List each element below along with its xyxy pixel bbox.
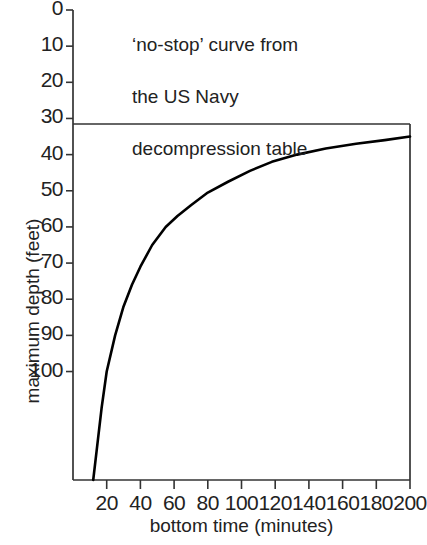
y-tick-label: 0 xyxy=(52,0,63,20)
x-tick-label: 160 xyxy=(325,491,360,515)
y-tick-label: 30 xyxy=(41,104,63,128)
y-tick-label: 40 xyxy=(41,141,63,165)
x-tick-label: 120 xyxy=(258,491,293,515)
x-axis-title: bottom time (minutes) xyxy=(73,515,410,537)
series-group xyxy=(93,137,410,480)
y-axis-title: maximum depth (feet) xyxy=(22,181,44,441)
x-tick-label: 80 xyxy=(196,491,219,515)
annotation-line-3: decompression table xyxy=(132,136,307,162)
annotation-line-2: the US Navy xyxy=(132,84,307,110)
y-tick-label: 10 xyxy=(41,32,63,56)
x-tick-label: 140 xyxy=(292,491,327,515)
chart-annotation: ‘no-stop’ curve from the US Navy decompr… xyxy=(132,6,307,188)
x-tick-label: 100 xyxy=(224,491,259,515)
x-tick-label: 180 xyxy=(359,491,394,515)
x-tick-label: 200 xyxy=(393,491,427,515)
annotation-line-1: ‘no-stop’ curve from xyxy=(132,32,307,58)
x-tick-label: 20 xyxy=(95,491,118,515)
x-tick-label: 60 xyxy=(163,491,186,515)
y-tick-label: 20 xyxy=(41,68,63,92)
x-tick-label: 40 xyxy=(129,491,152,515)
